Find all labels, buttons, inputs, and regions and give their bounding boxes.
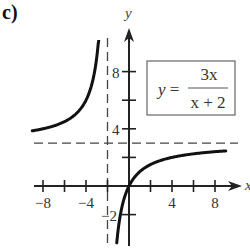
x-tick-label: −4 — [78, 195, 94, 211]
x-tick-label: 8 — [211, 195, 219, 211]
y-axis-label: y — [123, 5, 132, 21]
x-axis-label: x — [244, 177, 250, 193]
y-tick-label: 8 — [112, 65, 120, 81]
equation-box: y = 3x x + 2 — [147, 61, 235, 115]
function-plot: −8−448−248 y x y = 3x x + 2 — [0, 0, 250, 248]
y-tick-label: 4 — [112, 122, 120, 138]
x-tick-label: −8 — [35, 195, 51, 211]
equation-numerator: 3x — [201, 65, 219, 84]
left-branch-curve — [32, 40, 99, 131]
equation-lhs: y = — [156, 80, 179, 99]
y-tick-label: −2 — [101, 208, 117, 224]
x-tick-label: 4 — [168, 195, 176, 211]
equation-denominator: x + 2 — [190, 93, 225, 112]
